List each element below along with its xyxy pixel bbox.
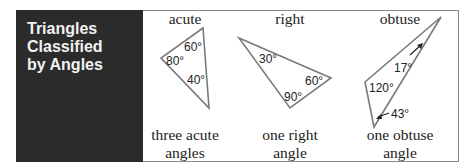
obtuse-angle-bottom: 43° [391,107,409,121]
right-triangle: 30° 60° 90° [239,38,331,108]
right-angle-bottom: 90° [284,90,302,104]
triangle-diagrams: 60° 80° 40° 30° 60° 90° 17° 120° 43° [0,0,474,168]
acute-triangle: 60° 80° 40° [161,28,209,108]
acute-angle-left: 80° [166,54,184,68]
acute-angle-top: 60° [184,40,202,54]
right-angle-left: 30° [259,52,277,66]
arrow-head-bottom [376,114,382,119]
obtuse-angle-top: 17° [394,61,412,75]
obtuse-triangle: 17° 120° 43° [365,17,441,127]
right-angle-right: 60° [305,74,323,88]
obtuse-angle-left: 120° [369,81,394,95]
acute-angle-bottom: 40° [187,73,205,87]
